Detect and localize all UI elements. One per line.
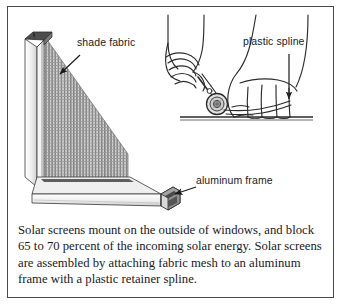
right-hand-holding-spline (228, 15, 308, 119)
work-surface-line (180, 117, 313, 120)
plastic-spline-strip (224, 101, 291, 115)
left-hand-with-spline-roller (166, 15, 216, 95)
solar-screen-figure: shade fabric plastic spline aluminum fra… (0, 0, 342, 306)
label-plastic-spline: plastic spline (243, 35, 305, 47)
caption-line-1: Solar screens mount on the outside of wi… (18, 222, 324, 238)
caption-line-4: frame with a plastic retainer spline. (18, 271, 324, 287)
figure-caption: Solar screens mount on the outside of wi… (18, 222, 324, 287)
caption-line-3: are assembled by attaching fabric mesh t… (18, 255, 324, 271)
shade-fabric-mesh (43, 34, 128, 179)
aluminum-frame-bottom-rail (32, 177, 161, 206)
label-aluminum-frame: aluminum frame (196, 174, 273, 186)
label-shade-fabric: shade fabric (77, 36, 135, 48)
frame-end-cap (161, 187, 180, 210)
caption-line-2: 65 to 70 percent of the incoming solar e… (18, 238, 324, 254)
spline-roller-wheel (207, 94, 228, 115)
